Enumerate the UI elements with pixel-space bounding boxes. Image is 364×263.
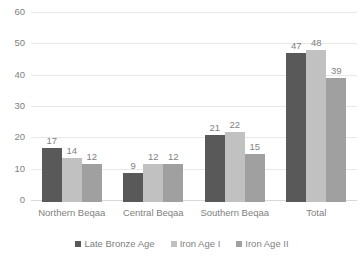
bar-late-bronze-age[interactable] <box>42 148 62 202</box>
y-tick-label: 60 <box>14 7 25 17</box>
bar-iron-age-i[interactable] <box>306 50 326 202</box>
bar-slot: 12 <box>163 10 183 202</box>
x-category-label: Southern Beqaa <box>194 204 276 224</box>
x-category-label: Central Beqaa <box>113 204 195 224</box>
bar-iron-age-i[interactable] <box>62 158 82 202</box>
y-axis: 60 50 40 30 20 10 0 <box>0 0 31 212</box>
bar-value-label: 12 <box>148 152 159 162</box>
bar-iron-age-ii[interactable] <box>82 164 102 202</box>
bar-iron-age-i[interactable] <box>225 132 245 202</box>
bar-slot: 14 <box>62 10 82 202</box>
chart-legend: Late Bronze Age Iron Age I Iron Age II <box>0 236 364 252</box>
y-tick-label: 40 <box>14 70 25 80</box>
bar-value-label: 17 <box>46 136 57 146</box>
x-category-label: Northern Beqaa <box>31 204 113 224</box>
bar-iron-age-i[interactable] <box>143 164 163 202</box>
bar-value-label: 48 <box>311 38 322 48</box>
legend-swatch-icon <box>75 241 81 247</box>
bar-group-southern-beqaa: 21 22 15 <box>194 10 276 202</box>
y-tick-label: 30 <box>14 101 25 111</box>
y-tick-label: 0 <box>20 195 25 205</box>
bar-group-northern-beqaa: 17 14 12 <box>31 10 113 202</box>
bar-group-central-beqaa: 9 12 12 <box>113 10 195 202</box>
bar-slot: 12 <box>82 10 102 202</box>
legend-item-iron-age-i[interactable]: Iron Age I <box>171 239 221 249</box>
bar-iron-age-ii[interactable] <box>326 78 346 202</box>
bar-value-label: 12 <box>168 152 179 162</box>
legend-label: Iron Age I <box>180 239 221 249</box>
bar-slot: 17 <box>42 10 62 202</box>
bar-value-label: 21 <box>209 123 220 133</box>
legend-label: Iron Age II <box>245 239 288 249</box>
y-tick-label: 10 <box>14 164 25 174</box>
legend-label: Late Bronze Age <box>84 239 154 249</box>
bar-value-label: 15 <box>249 142 260 152</box>
bar-late-bronze-age[interactable] <box>205 135 225 202</box>
bar-slot: 15 <box>245 10 265 202</box>
bar-slot: 47 <box>286 10 306 202</box>
bar-slot: 21 <box>205 10 225 202</box>
bar-value-label: 14 <box>66 146 77 156</box>
bar-slot: 22 <box>225 10 245 202</box>
bar-slot: 12 <box>143 10 163 202</box>
legend-item-iron-age-ii[interactable]: Iron Age II <box>236 239 288 249</box>
bar-value-label: 22 <box>229 120 240 130</box>
bar-group-total: 47 48 39 <box>276 10 358 202</box>
bar-value-label: 39 <box>331 66 342 76</box>
x-axis: Northern Beqaa Central Beqaa Southern Be… <box>31 204 357 224</box>
legend-swatch-icon <box>236 241 242 247</box>
x-category-label: Total <box>276 204 358 224</box>
bar-value-label: 9 <box>131 161 136 171</box>
bar-value-label: 12 <box>86 152 97 162</box>
bar-value-label: 47 <box>291 41 302 51</box>
bar-slot: 39 <box>326 10 346 202</box>
bar-groups: 17 14 12 9 12 <box>31 10 357 202</box>
bar-iron-age-ii[interactable] <box>163 164 183 202</box>
y-tick-label: 50 <box>14 38 25 48</box>
y-tick-label: 20 <box>14 132 25 142</box>
bar-chart: 60 50 40 30 20 10 0 17 14 12 <box>0 0 364 263</box>
bar-slot: 9 <box>123 10 143 202</box>
bar-late-bronze-age[interactable] <box>123 173 143 202</box>
bar-late-bronze-age[interactable] <box>286 53 306 202</box>
legend-swatch-icon <box>171 241 177 247</box>
legend-item-late-bronze-age[interactable]: Late Bronze Age <box>75 239 154 249</box>
bar-slot: 48 <box>306 10 326 202</box>
bar-iron-age-ii[interactable] <box>245 154 265 202</box>
